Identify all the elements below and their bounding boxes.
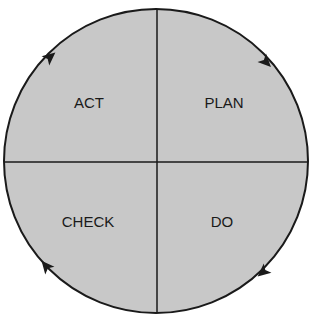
quadrant-label-act: ACT: [74, 94, 104, 111]
pdca-diagram: ACT PLAN DO CHECK: [0, 0, 312, 328]
quadrant-label-check: CHECK: [62, 213, 115, 230]
quadrant-label-plan: PLAN: [204, 94, 243, 111]
quadrant-label-do: DO: [211, 213, 234, 230]
